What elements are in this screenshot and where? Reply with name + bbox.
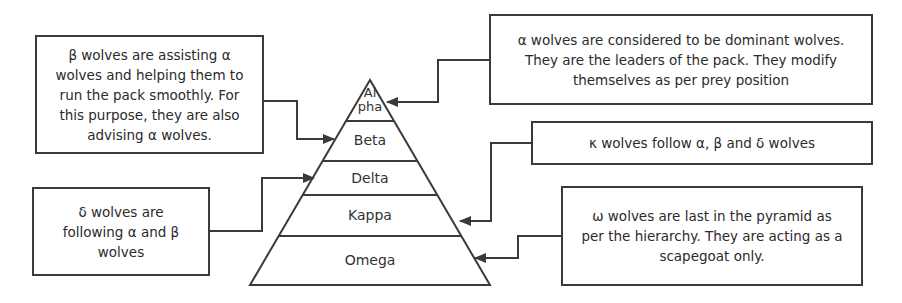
connector-beta xyxy=(263,101,334,139)
layer-label-alpha-line1: Al xyxy=(358,86,382,100)
layer-label-delta: Delta xyxy=(351,170,388,186)
callout-kappa: κ wolves follow α, β and δ wolves xyxy=(531,121,873,165)
layer-label-alpha-line2: pha xyxy=(358,100,382,114)
callout-delta-text: δ wolves are following α and β wolves xyxy=(52,202,190,262)
callout-alpha-text: α wolves are considered to be dominant w… xyxy=(507,30,855,90)
connector-alpha xyxy=(387,60,490,102)
callout-omega-text: ω wolves are last in the pyramid as per … xyxy=(581,206,843,266)
callout-beta: β wolves are assisting α wolves and help… xyxy=(35,35,264,154)
layer-label-beta: Beta xyxy=(354,132,386,148)
callout-beta-text: β wolves are assisting α wolves and help… xyxy=(51,45,248,145)
callout-alpha: α wolves are considered to be dominant w… xyxy=(489,14,873,105)
layer-label-omega: Omega xyxy=(345,252,396,268)
callout-omega: ω wolves are last in the pyramid as per … xyxy=(561,186,863,286)
layer-label-alpha: Al pha xyxy=(358,86,382,114)
connector-omega xyxy=(475,236,562,258)
layer-label-kappa: Kappa xyxy=(348,207,392,223)
callout-delta: δ wolves are following α and β wolves xyxy=(32,187,210,276)
callout-kappa-text: κ wolves follow α, β and δ wolves xyxy=(589,133,815,153)
connector-kappa xyxy=(460,143,532,221)
